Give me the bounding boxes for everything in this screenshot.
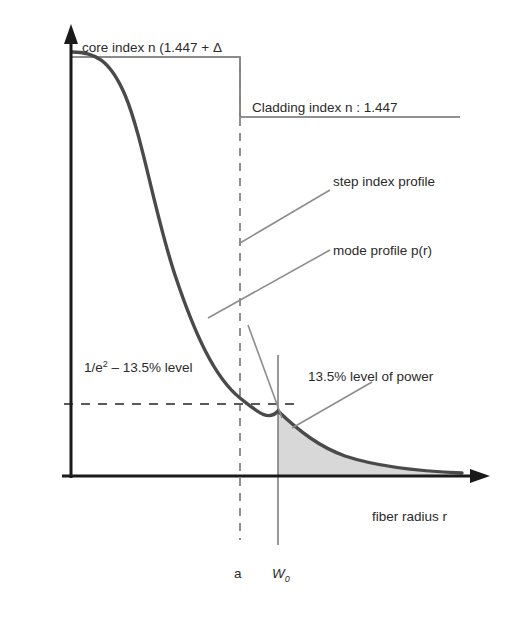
mode-profile-curve — [72, 52, 462, 473]
tick-label-w0: W0 — [272, 566, 290, 584]
fiber-index-profile-diagram: core index n (1.447 + Δ Cladding index n… — [0, 0, 513, 623]
w0-subscript: 0 — [285, 574, 290, 584]
mode-profile-leader — [208, 250, 330, 318]
core-index-label: core index n (1.447 + Δ — [82, 40, 222, 55]
power-level-leader — [292, 382, 372, 428]
cladding-index-label: Cladding index n : 1.447 — [252, 100, 398, 115]
e2-level-label: 1/e2 – 13.5% level — [84, 359, 193, 375]
x-axis-arrowhead — [470, 469, 490, 483]
x-axis-label: fiber radius r — [372, 509, 448, 524]
e2-level-prefix: 1/e — [84, 360, 103, 375]
mode-profile-label: mode profile p(r) — [333, 243, 432, 258]
step-index-profile-label: step index profile — [333, 174, 435, 189]
power-level-label: 13.5% level of power — [308, 369, 434, 384]
y-axis-arrowhead — [64, 24, 78, 44]
tick-label-a: a — [234, 566, 242, 581]
step-index-profile-leader — [240, 190, 330, 243]
e2-level-suffix: – 13.5% level — [108, 360, 193, 375]
